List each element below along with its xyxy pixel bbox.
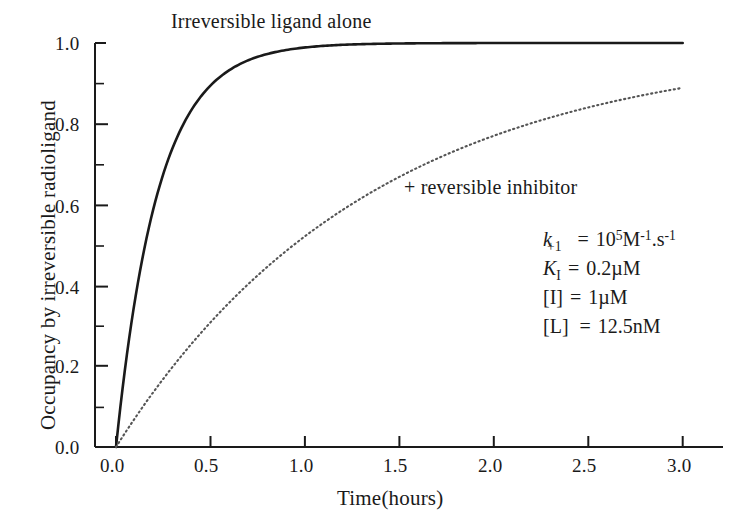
- param-k-equals: =: [577, 228, 588, 250]
- x-tick-label-2.0: 2.0: [478, 455, 503, 477]
- param-k-unit-seconds: .s: [652, 228, 665, 250]
- y-axis-major-ticks: [95, 124, 108, 366]
- param-ki: KI=0.2µM: [543, 254, 676, 283]
- x-tick-label-3.0: 3.0: [667, 455, 692, 477]
- param-inhibitor-value: 1µM: [588, 286, 627, 308]
- param-k-unit-seconds-exponent: -1: [664, 228, 675, 243]
- chart-figure: Occupancy by irreversible radioligand Ti…: [0, 0, 751, 527]
- param-k-unit-molar: M: [623, 228, 641, 250]
- param-inhibitor-conc: [I]=1µM: [543, 283, 676, 312]
- y-tick-label-0.0: 0.0: [55, 437, 80, 459]
- param-k-subscript: +1: [547, 239, 561, 254]
- param-k-plus-1: k+1=105M-1.s-1: [543, 225, 676, 254]
- solid-curve-label: Irreversible ligand alone: [171, 10, 371, 33]
- y-tick-label-0.4: 0.4: [55, 277, 80, 299]
- param-k-value: 10: [596, 228, 616, 250]
- x-tick-label-0.5: 0.5: [194, 455, 219, 477]
- x-axis-label: Time(hours): [337, 486, 443, 511]
- param-k-value-exponent: 5: [616, 228, 623, 243]
- param-ligand-conc: [L]=12.5nM: [543, 312, 676, 341]
- param-ligand-symbol: [L]: [543, 315, 569, 337]
- x-tick-label-1.0: 1.0: [289, 455, 314, 477]
- param-ki-value: 0.2µM: [586, 257, 640, 279]
- y-tick-label-0.8: 0.8: [55, 114, 80, 136]
- y-axis-label: Occupancy by irreversible radioligand: [36, 100, 61, 430]
- x-tick-label-0.0: 0.0: [100, 455, 125, 477]
- param-inhibitor-symbol: [I]: [543, 286, 563, 308]
- x-axis-ticks: [116, 436, 683, 447]
- y-tick-label-0.2: 0.2: [55, 356, 80, 378]
- param-ligand-equals: =: [580, 315, 591, 337]
- dotted-curve-label: + reversible inhibitor: [404, 176, 577, 199]
- x-tick-label-2.5: 2.5: [572, 455, 597, 477]
- param-inhibitor-equals: =: [570, 286, 581, 308]
- param-k-unit-molar-exponent: -1: [640, 228, 651, 243]
- param-ki-symbol: K: [543, 257, 556, 279]
- parameter-annotation-box: k+1=105M-1.s-1 KI=0.2µM [I]=1µM [L]=12.5…: [543, 225, 676, 341]
- y-axis-minor-ticks: [95, 84, 104, 408]
- param-ligand-value: 12.5nM: [598, 315, 661, 337]
- x-tick-label-1.5: 1.5: [383, 455, 408, 477]
- y-tick-label-0.6: 0.6: [55, 196, 80, 218]
- param-ki-equals: =: [568, 257, 579, 279]
- param-ki-subscript: I: [556, 268, 561, 283]
- y-tick-label-1.0: 1.0: [55, 33, 80, 55]
